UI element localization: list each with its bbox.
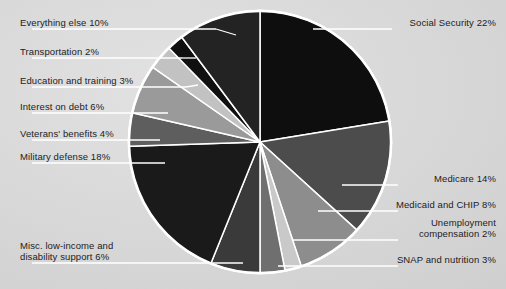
label-social-security: Social Security 22% xyxy=(296,17,496,29)
label-snap-and-nutrition: SNAP and nutrition 3% xyxy=(296,254,496,266)
label-veterans-benefits: Veterans' benefits 4% xyxy=(20,128,114,140)
label-misc-low-income-line2: disability support 6% xyxy=(20,251,109,263)
label-everything-else: Everything else 10% xyxy=(20,17,109,29)
label-military-defense: Military defense 18% xyxy=(20,151,110,163)
label-education-and-training: Education and training 3% xyxy=(20,75,133,87)
chart-canvas: Everything else 10% Transportation 2% Ed… xyxy=(0,0,506,289)
label-medicaid-and-chip: Medicaid and CHIP 8% xyxy=(296,199,496,211)
label-medicare: Medicare 14% xyxy=(296,173,496,185)
label-misc-low-income-line1: Misc. low-income and xyxy=(20,240,113,252)
label-unemployment-compensation-line2: compensation 2% xyxy=(296,228,496,240)
label-interest-on-debt: Interest on debt 6% xyxy=(20,101,104,113)
label-unemployment-compensation-line1: Unemployment xyxy=(296,217,496,229)
label-transportation: Transportation 2% xyxy=(20,46,99,58)
